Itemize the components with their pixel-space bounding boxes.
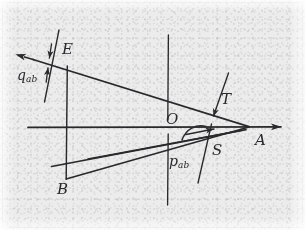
upper-ray-arrow-left [25, 57, 35, 60]
figure-container: E O A B T S qab pab [0, 0, 305, 230]
label-point-O: O [166, 112, 178, 127]
upper-ray-E-to-A [33, 60, 249, 127]
horizontal-axis [28, 127, 281, 128]
label-point-A: A [255, 133, 266, 148]
label-q-ab-subscript: ab [26, 74, 38, 84]
label-point-T: T [221, 92, 231, 107]
label-p-ab-subscript: ab [178, 160, 190, 170]
q-measure-arrow-up [46, 68, 48, 82]
label-q-ab: qab [17, 68, 38, 84]
label-q-ab-base: q [17, 67, 26, 83]
label-p-ab-base: p [169, 153, 178, 169]
diagram-canvas [0, 0, 305, 230]
label-point-E: E [62, 42, 73, 57]
q-measure-arrow-down [49, 44, 51, 58]
label-point-S: S [212, 143, 222, 158]
label-point-B: B [57, 182, 68, 197]
left-vertical-drop-B [66, 66, 67, 179]
label-p-ab: pab [169, 154, 190, 170]
page-edge [3, 3, 303, 228]
slant-line-S-lower [198, 124, 212, 183]
